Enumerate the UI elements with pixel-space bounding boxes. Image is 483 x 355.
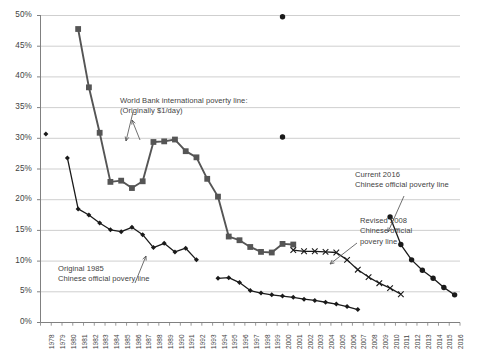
data-point-diamond: [312, 298, 317, 303]
data-point-square: [97, 130, 103, 136]
data-point-diamond: [323, 300, 328, 305]
data-point-x: [344, 257, 350, 263]
x-axis-label: 2001: [296, 334, 303, 349]
x-axis-label: 1999: [274, 334, 281, 349]
annotation-line: Revised 2008: [360, 216, 412, 226]
data-point-diamond: [119, 229, 124, 234]
x-axis-label: 1989: [167, 334, 174, 349]
series-square: [75, 26, 296, 255]
x-axis-label: 1994: [221, 334, 228, 349]
y-axis-label: 30%: [2, 133, 32, 142]
data-point-diamond: [269, 292, 274, 297]
series-x: [290, 247, 403, 297]
annotation-line: Original 1985: [58, 264, 150, 274]
x-axis-label: 2000: [285, 334, 292, 349]
data-point-x: [387, 285, 393, 291]
x-axis-label: 2005: [339, 334, 346, 349]
x-axis-label: 2012: [414, 334, 421, 349]
x-axis-label: 2014: [436, 334, 443, 349]
data-point-circle: [280, 134, 285, 139]
x-axis-label: 1988: [156, 334, 163, 349]
x-axis-label: 2011: [403, 334, 410, 348]
x-axis-label: 1997: [253, 334, 260, 349]
series-line: [78, 29, 293, 252]
data-point-x: [366, 274, 372, 280]
y-axis-label: 10%: [2, 256, 32, 265]
data-point-diamond: [76, 206, 81, 211]
data-point-diamond: [345, 304, 350, 309]
data-point-diamond: [43, 132, 48, 137]
y-axis-label: 15%: [2, 225, 32, 234]
data-point-square: [108, 179, 114, 185]
annotation-line: World Bank international poverty line:: [120, 96, 248, 106]
data-point-x: [377, 280, 383, 286]
data-point-square: [183, 148, 189, 154]
annotation-revised-2008: Revised 2008Chinese officialpovery line: [360, 216, 412, 247]
data-point-diamond: [291, 295, 296, 300]
data-point-square: [172, 137, 178, 143]
data-point-square: [140, 178, 146, 184]
annotation-current-2016: Current 2016Chinese official poverty lin…: [355, 170, 449, 191]
x-axis-label: 2009: [382, 334, 389, 349]
x-axis-label: 1986: [135, 334, 142, 349]
x-axis-label: 1993: [210, 334, 217, 349]
annotation-line: Chinese official povery line: [58, 274, 150, 284]
data-point-square: [226, 234, 232, 240]
x-axis-label: 1987: [145, 334, 152, 349]
annotation-line: (Originally $1/day): [120, 106, 248, 116]
x-axis-label: 2002: [307, 334, 314, 349]
x-axis-label: 1992: [199, 334, 206, 349]
data-point-diamond: [259, 291, 264, 296]
data-point-diamond: [215, 276, 220, 281]
y-axis-label: 20%: [2, 194, 32, 203]
annotation-world-bank: World Bank international poverty line:(O…: [120, 96, 248, 117]
annotation-line: povery line: [360, 237, 412, 247]
y-axis-label: 25%: [2, 164, 32, 173]
y-axis-label: 50%: [2, 10, 32, 19]
annotation-original-1985: Original 1985Chinese official povery lin…: [58, 264, 150, 285]
x-axis-label: 1982: [92, 334, 99, 349]
annotation-line: Current 2016: [355, 170, 449, 180]
x-axis-label: 2015: [446, 334, 453, 349]
y-axis-label: 45%: [2, 41, 32, 50]
x-axis-label: 1990: [178, 334, 185, 349]
data-point-square: [75, 26, 81, 32]
x-axis-label: 2010: [393, 334, 400, 349]
x-axis-label: 1991: [188, 334, 195, 349]
data-point-square: [258, 249, 264, 255]
data-point-diamond: [65, 155, 70, 160]
x-axis-label: 2006: [350, 334, 357, 349]
x-axis-label: 2003: [317, 334, 324, 349]
x-axis-label: 1985: [124, 334, 131, 349]
data-point-circle: [452, 292, 457, 297]
data-point-circle: [409, 257, 414, 262]
annotation-line: Chinese official: [360, 226, 412, 236]
data-point-square: [118, 178, 124, 184]
x-axis-label: 2013: [425, 334, 432, 349]
data-point-square: [290, 242, 296, 248]
data-point-x: [398, 291, 404, 297]
data-point-diamond: [355, 307, 360, 312]
data-point-square: [204, 176, 210, 182]
data-point-square: [86, 84, 92, 90]
x-axis-label: 2007: [360, 334, 367, 349]
data-point-circle: [420, 268, 425, 273]
x-axis-label: 1995: [231, 334, 238, 349]
x-axis-label: 1983: [102, 334, 109, 349]
data-point-square: [247, 244, 253, 250]
series-line: [67, 158, 196, 260]
data-point-square: [280, 241, 286, 247]
x-axis-label: 1996: [242, 334, 249, 349]
x-axis-label: 1981: [81, 334, 88, 349]
data-point-square: [237, 237, 243, 243]
data-point-diamond: [334, 302, 339, 307]
data-point-circle: [280, 14, 285, 19]
x-axis-label: 1978: [48, 334, 55, 349]
data-point-diamond: [226, 275, 231, 280]
data-point-square: [194, 154, 200, 160]
leader-world-bank-2: [132, 120, 140, 140]
data-point-diamond: [280, 294, 285, 299]
x-axis-label: 1980: [70, 334, 77, 349]
data-point-square: [161, 138, 167, 144]
series-line: [293, 250, 401, 294]
